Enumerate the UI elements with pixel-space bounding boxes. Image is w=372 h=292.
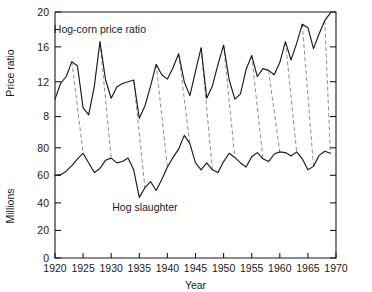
lag-connector bbox=[179, 54, 190, 144]
y-upper-tick-label: 16 bbox=[37, 41, 49, 53]
y-upper-tick-label: 12 bbox=[37, 76, 49, 88]
lag-connector bbox=[156, 64, 167, 167]
x-tick-label: 1970 bbox=[324, 262, 348, 274]
y-lower-tick-label: 60 bbox=[37, 169, 49, 181]
y-upper-tick-label: 20 bbox=[37, 6, 49, 18]
x-tick-label: 1940 bbox=[156, 262, 180, 274]
x-axis-tick-labels: 1920192519301935194019451950195519601965… bbox=[43, 262, 348, 274]
chart-container: 1920192519301935194019451950195519601965… bbox=[0, 0, 372, 292]
x-tick-label: 1925 bbox=[71, 262, 95, 274]
lag-connector bbox=[134, 80, 145, 188]
x-tick-label: 1955 bbox=[240, 262, 264, 274]
x-tick-label: 1930 bbox=[100, 262, 124, 274]
lag-connector-lines bbox=[72, 21, 331, 188]
lag-connector bbox=[224, 45, 235, 157]
x-tick-label: 1960 bbox=[268, 262, 292, 274]
y-upper-axis-title: Price ratio bbox=[4, 49, 16, 96]
x-axis-title: Year bbox=[185, 279, 207, 291]
x-tick-label: 1945 bbox=[184, 262, 208, 274]
hog-slaughter-annotation: Hog slaughter bbox=[112, 201, 178, 213]
y-lower-axis-title: Millions bbox=[4, 188, 16, 223]
hog-slaughter-line bbox=[55, 135, 330, 197]
y-lower-tick-label: 20 bbox=[37, 224, 49, 236]
x-tick-label: 1965 bbox=[296, 262, 320, 274]
lag-connector bbox=[325, 21, 331, 154]
y-lower-tick-label: 0 bbox=[43, 252, 49, 264]
y-upper-tick-label: 8 bbox=[43, 110, 49, 122]
y-lower-tick-label: 40 bbox=[37, 197, 49, 209]
x-axis-ticks bbox=[55, 253, 336, 258]
x-tick-label: 1935 bbox=[128, 262, 152, 274]
lag-connector bbox=[302, 24, 313, 166]
price-ratio-annotation: Hog-corn price ratio bbox=[54, 23, 146, 35]
lag-connector bbox=[269, 70, 280, 152]
y-lower-tick-label: 80 bbox=[37, 142, 49, 154]
right-axis-ticks bbox=[330, 12, 336, 258]
x-tick-label: 1950 bbox=[212, 262, 236, 274]
lag-connector bbox=[72, 62, 83, 154]
lag-connector bbox=[100, 42, 111, 158]
y-lower-axis-ticks bbox=[55, 148, 61, 258]
plot-frame bbox=[55, 12, 336, 258]
hog-cycle-chart: 1920192519301935194019451950195519601965… bbox=[0, 0, 372, 292]
y-upper-axis-tick-labels: 8121620 bbox=[37, 6, 49, 123]
y-lower-axis-tick-labels: 020406080 bbox=[37, 142, 49, 264]
